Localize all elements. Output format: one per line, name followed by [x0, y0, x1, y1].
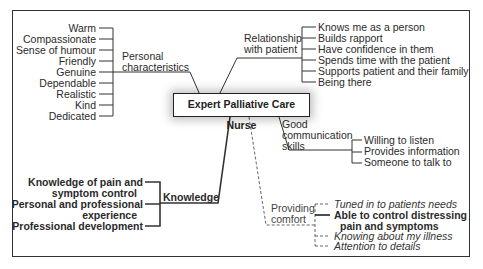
- branch-label-communication-3: skills: [282, 141, 305, 152]
- list-item: Someone to talk to: [364, 157, 452, 168]
- branch-label-relationship-2: with patient: [244, 44, 297, 55]
- branch-label-knowledge: Knowledge: [163, 192, 219, 203]
- list-item: Professional development: [12, 221, 143, 232]
- list-item: Being there: [318, 77, 372, 88]
- central-node: Expert Palliative Care Nurse: [173, 93, 310, 117]
- list-item: Attention to details: [334, 241, 420, 252]
- branch-label-personal-2: characteristics: [122, 62, 189, 73]
- branch-label-comfort-2: comfort: [271, 214, 306, 225]
- list-item: Dedicated: [49, 111, 96, 122]
